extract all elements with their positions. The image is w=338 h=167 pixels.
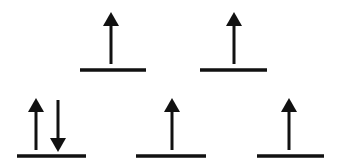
energy-level-upper — [80, 12, 267, 70]
orbital — [136, 98, 206, 156]
spin-up-arrow-icon — [281, 98, 297, 150]
orbital — [257, 98, 324, 156]
spin-up-arrow-icon — [28, 98, 44, 150]
energy-level-lower — [17, 98, 324, 156]
orbital — [200, 12, 267, 70]
spin-up-arrow-icon — [164, 98, 180, 150]
spin-up-arrow-icon — [103, 12, 119, 64]
orbital-diagram — [0, 0, 338, 167]
orbital — [80, 12, 146, 70]
spin-up-arrow-icon — [226, 12, 242, 64]
orbital — [17, 98, 86, 156]
orbital-diagram-canvas — [0, 0, 338, 167]
spin-down-arrow-icon — [50, 100, 66, 152]
